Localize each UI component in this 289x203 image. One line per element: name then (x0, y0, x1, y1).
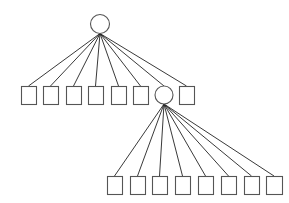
square-node-b6 (222, 177, 237, 195)
tree-diagram (0, 0, 289, 203)
edge-hub2-b5 (164, 104, 206, 176)
square-node-b5 (199, 177, 214, 195)
edge-root-a1 (29, 34, 101, 87)
edges-layer (29, 34, 275, 177)
square-node-a4 (89, 87, 104, 105)
circle-node-root (91, 15, 110, 34)
square-node-b3 (153, 177, 168, 195)
square-node-b2 (131, 177, 146, 195)
nodes-layer (22, 15, 283, 195)
square-node-a1 (22, 87, 37, 105)
square-node-a6 (134, 87, 149, 105)
tree-diagram-canvas (0, 0, 289, 203)
square-node-a5 (112, 87, 127, 105)
edge-root-a8 (100, 34, 187, 87)
square-node-b4 (176, 177, 191, 195)
square-node-b1 (108, 177, 123, 195)
edge-hub2-b7 (164, 104, 252, 176)
square-node-a2 (44, 87, 59, 105)
square-node-b7 (245, 177, 260, 195)
square-node-a8 (180, 87, 195, 105)
edge-root-a6 (100, 34, 141, 87)
edge-root-a2 (51, 34, 101, 87)
square-node-a3 (67, 87, 82, 105)
edge-hub2-b1 (115, 104, 165, 176)
circle-node-hub2 (155, 86, 173, 104)
square-node-b8 (267, 177, 283, 195)
